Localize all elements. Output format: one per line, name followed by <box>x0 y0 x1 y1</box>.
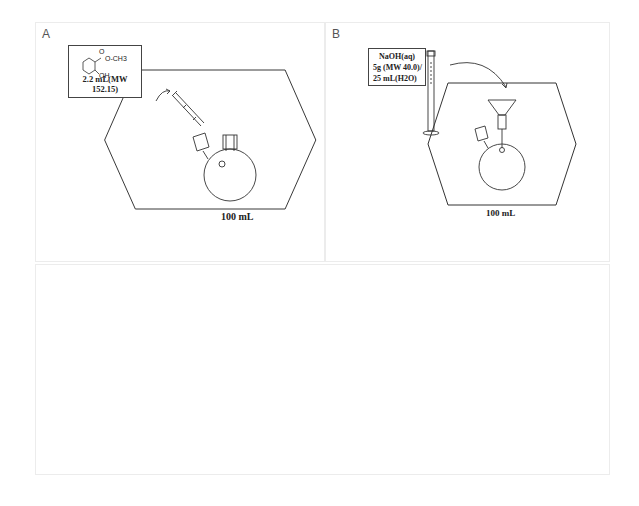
flask-volume-label: 100 mL <box>221 211 254 222</box>
svg-text:O: O <box>99 48 105 55</box>
flask-with-funnel-icon <box>475 100 525 190</box>
panel-a: A O O-CH3 <box>35 22 325 262</box>
panel-c-empty <box>35 264 610 475</box>
reagent-amount: 2.2 mL(MW 152.15) <box>69 74 141 94</box>
svg-text:O-CH3: O-CH3 <box>105 55 127 62</box>
reagent-box-naoh: NaOH(aq) 5g (MW 40.0)/ 25 mL(H2O) <box>368 48 426 86</box>
panel-b: B NaOH(aq) 5g (MW 40.0)/ 25 mL(H2O) <box>325 22 610 262</box>
curved-arrow-icon <box>156 91 170 101</box>
syringe-icon <box>172 91 204 126</box>
flask-volume-label: 100 mL <box>486 208 515 218</box>
reagent-line-2: 5g (MW 40.0)/ <box>373 62 425 73</box>
reagent-line-1: NaOH(aq) <box>373 51 425 62</box>
round-bottom-flask-icon <box>193 133 256 201</box>
reagent-line-3: 25 mL(H2O) <box>373 73 425 84</box>
reagent-box-methyl-salicylate: O O-CH3 OH 2.2 mL(MW 152.15) <box>68 45 142 98</box>
